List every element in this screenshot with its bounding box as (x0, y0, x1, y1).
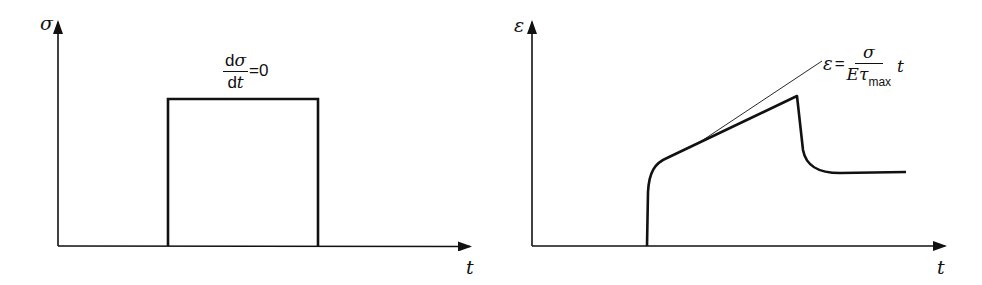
right-x-axis-label: t (937, 258, 945, 277)
right-y-axis-label: ε (514, 16, 524, 35)
dsigma-dt-annotation: dσ dt =0 (223, 52, 268, 91)
left-x-axis-label: t (466, 258, 474, 277)
left-x-axis (58, 246, 470, 247)
derivative-fraction: dσ dt (223, 52, 248, 91)
strain-curve (647, 96, 906, 246)
stress-pulse-curve (168, 99, 318, 247)
equals-sign: = (835, 55, 845, 72)
derivative-numerator: dσ (223, 52, 248, 72)
strain-fraction: σ Eτmax (847, 44, 892, 83)
tangent-line (700, 61, 822, 142)
derivative-denominator: dt (227, 72, 243, 91)
strain-formula-annotation: ε = σ Eτmax t (823, 44, 904, 83)
strain-symbol: ε (823, 55, 833, 73)
left-y-axis-label: σ (40, 14, 53, 33)
fraction-numerator: σ (855, 44, 883, 64)
time-variable: t (897, 58, 904, 75)
fraction-denominator: Eτmax (847, 64, 892, 83)
derivative-rhs: =0 (249, 62, 268, 79)
diagram-canvas (0, 0, 982, 285)
